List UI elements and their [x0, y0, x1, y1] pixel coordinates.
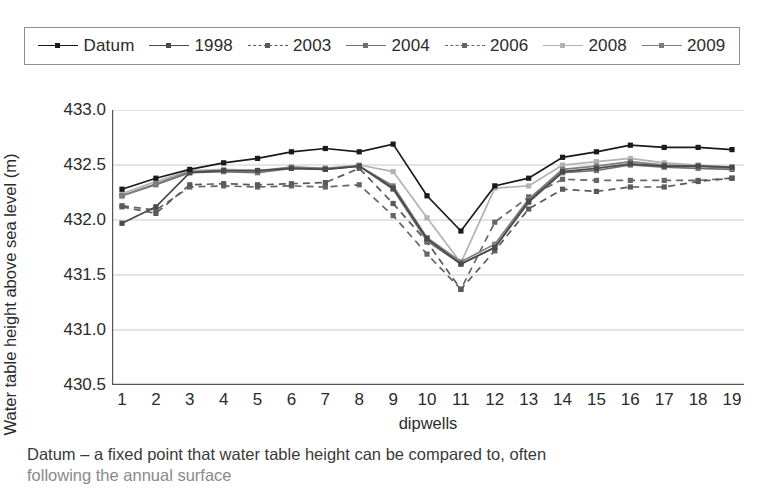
series-2009: [119, 159, 734, 264]
x-axis-tick-labels: 12345678910111213141516171819: [112, 390, 744, 412]
x-tick-label: 8: [354, 390, 363, 410]
x-tick-label: 11: [452, 390, 470, 410]
legend-swatch-icon: [149, 39, 189, 53]
legend-swatch-icon: [543, 39, 583, 53]
data-point-marker: [187, 167, 192, 172]
y-tick-label: 432.0: [63, 210, 106, 230]
caption-line-2: following the annual surface: [27, 465, 727, 486]
data-point-marker: [458, 287, 463, 292]
data-point-marker: [492, 245, 497, 250]
x-tick-label: 5: [253, 390, 262, 410]
data-point-marker: [424, 193, 429, 198]
data-point-marker: [153, 211, 158, 216]
data-point-marker: [391, 169, 396, 174]
data-point-marker: [662, 164, 667, 169]
legend-swatch-icon: [642, 39, 682, 53]
legend-label: Datum: [83, 36, 134, 56]
data-point-marker: [729, 147, 734, 152]
data-point-marker: [323, 146, 328, 151]
legend-entry-2003[interactable]: 2003: [248, 36, 332, 56]
data-point-marker: [560, 169, 565, 174]
data-point-marker: [492, 220, 497, 225]
data-point-marker: [729, 165, 734, 170]
legend-entry-1998[interactable]: 1998: [149, 36, 233, 56]
data-point-marker: [526, 199, 531, 204]
x-tick-label: 19: [723, 390, 742, 410]
x-tick-label: 17: [655, 390, 674, 410]
plot-area: [112, 110, 744, 385]
data-point-marker: [255, 156, 260, 161]
x-tick-label: 15: [587, 390, 606, 410]
legend-swatch-icon: [248, 39, 288, 53]
x-tick-label: 16: [621, 390, 640, 410]
data-point-marker: [696, 179, 701, 184]
data-point-marker: [729, 176, 734, 181]
data-point-marker: [221, 168, 226, 173]
x-tick-label: 10: [418, 390, 437, 410]
y-tick-label: 431.0: [63, 320, 106, 340]
legend-entry-datum[interactable]: Datum: [38, 36, 134, 56]
x-tick-label: 18: [689, 390, 708, 410]
x-tick-label: 6: [287, 390, 296, 410]
data-point-marker: [696, 145, 701, 150]
y-axis-tick-labels: 430.5431.0431.5432.0432.5433.0: [44, 110, 106, 385]
series-line: [122, 162, 732, 262]
legend-label: 2006: [490, 36, 529, 56]
data-point-marker: [628, 143, 633, 148]
series-2004: [119, 162, 734, 266]
legend-label: 2008: [588, 36, 627, 56]
x-tick-label: 7: [321, 390, 330, 410]
series-line: [122, 164, 732, 264]
data-point-marker: [289, 149, 294, 154]
data-point-marker: [153, 181, 158, 186]
data-point-marker: [357, 164, 362, 169]
data-point-marker: [424, 252, 429, 257]
data-point-marker: [357, 149, 362, 154]
data-point-marker: [662, 184, 667, 189]
data-point-marker: [119, 221, 124, 226]
data-point-marker: [119, 187, 124, 192]
legend-label: 2003: [293, 36, 332, 56]
legend-swatch-icon: [38, 39, 78, 53]
legend-entry-2009[interactable]: 2009: [642, 36, 726, 56]
data-point-marker: [391, 213, 396, 218]
data-point-marker: [289, 181, 294, 186]
y-axis-title: Water table height above sea level (m): [1, 85, 20, 488]
data-point-marker: [594, 149, 599, 154]
data-point-marker: [391, 142, 396, 147]
data-point-marker: [289, 166, 294, 171]
y-tick-label: 431.5: [63, 265, 106, 285]
data-point-marker: [594, 166, 599, 171]
data-point-marker: [526, 206, 531, 211]
legend-label: 2004: [391, 36, 430, 56]
x-tick-label: 1: [117, 390, 126, 410]
series-2006: [119, 176, 734, 292]
data-point-marker: [424, 215, 429, 220]
y-tick-label: 433.0: [63, 100, 106, 120]
data-point-marker: [560, 187, 565, 192]
data-point-marker: [323, 180, 328, 185]
data-point-marker: [119, 204, 124, 209]
data-point-marker: [323, 167, 328, 172]
data-point-marker: [255, 182, 260, 187]
data-point-marker: [153, 176, 158, 181]
legend-entry-2004[interactable]: 2004: [346, 36, 430, 56]
legend-entry-2008[interactable]: 2008: [543, 36, 627, 56]
data-point-marker: [628, 178, 633, 183]
data-point-marker: [424, 236, 429, 241]
caption-line-1: Datum – a fixed point that water table h…: [27, 444, 727, 465]
data-point-marker: [662, 145, 667, 150]
figure-caption: Datum – a fixed point that water table h…: [27, 444, 727, 486]
y-tick-label: 430.5: [63, 375, 106, 395]
data-point-marker: [628, 184, 633, 189]
data-point-marker: [391, 201, 396, 206]
x-axis-title: dipwells: [112, 414, 744, 433]
data-point-marker: [391, 186, 396, 191]
x-tick-label: 3: [185, 390, 194, 410]
x-tick-label: 4: [219, 390, 228, 410]
data-point-marker: [696, 164, 701, 169]
data-point-marker: [560, 155, 565, 160]
legend-entry-2006[interactable]: 2006: [445, 36, 529, 56]
data-point-marker: [255, 168, 260, 173]
series-2003: [119, 166, 734, 292]
